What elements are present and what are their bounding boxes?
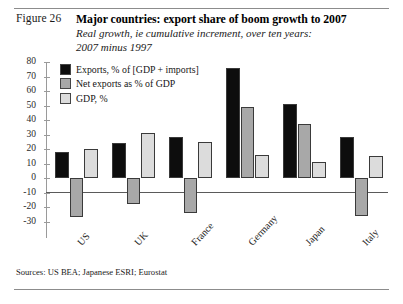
bar-germany-series-3 — [255, 155, 269, 178]
legend-swatch-icon — [60, 78, 71, 89]
x-label-italy: Italy — [360, 227, 381, 248]
y-tick-0 — [44, 178, 50, 179]
bar-japan-series-1 — [283, 104, 297, 178]
bar-uk-series-3 — [141, 133, 155, 178]
bar-japan-series-3 — [312, 162, 326, 178]
figure-panel: Figure 26 Major countries: export share … — [0, 0, 403, 304]
top-divider — [14, 8, 389, 9]
y-tick-neg20 — [44, 207, 50, 208]
y-tick-20 — [44, 149, 50, 150]
source-note: Sources: US BEA; Japanese ESRI; Eurostat — [16, 267, 167, 277]
x-label-germany: Germany — [246, 213, 279, 248]
bar-italy-series-1 — [340, 137, 354, 178]
figure-subtitle-line-1: Real growth, ie cumulative increment, ov… — [76, 27, 312, 39]
legend-item-2: Net exports as % of GDP — [60, 78, 199, 90]
bar-us-series-1 — [55, 152, 69, 178]
figure-subtitle-line-2: 2007 minus 1997 — [76, 41, 152, 53]
figure-title: Major countries: export share of boom gr… — [76, 12, 347, 27]
y-tick-label: 60 — [0, 86, 36, 96]
legend-item-1: Exports, % of [GDP + imports] — [60, 63, 199, 75]
bar-us-series-3 — [84, 149, 98, 178]
y-tick-60 — [44, 91, 50, 92]
y-tick-label: -30 — [0, 217, 36, 227]
legend-swatch-icon — [60, 93, 71, 104]
y-tick-label: 40 — [0, 115, 36, 125]
bar-italy-series-3 — [369, 156, 383, 178]
y-tick-40 — [44, 120, 50, 121]
legend-label: Net exports as % of GDP — [76, 78, 175, 89]
chart-legend: Exports, % of [GDP + imports]Net exports… — [60, 63, 199, 107]
y-tick-label: 50 — [0, 101, 36, 111]
bar-france-series-3 — [198, 142, 212, 178]
y-tick-neg10 — [44, 193, 50, 194]
y-tick-neg30 — [44, 222, 50, 223]
y-tick-label: 10 — [0, 159, 36, 169]
bar-japan-series-2 — [298, 124, 312, 178]
legend-swatch-icon — [60, 64, 71, 75]
bar-italy-series-2 — [355, 178, 369, 216]
x-label-us: US — [75, 231, 92, 248]
legend-item-3: GDP, % — [60, 92, 199, 104]
y-tick-label: -10 — [0, 188, 36, 198]
bar-uk-series-1 — [112, 143, 126, 178]
y-axis-line — [46, 62, 47, 238]
figure-number: Figure 26 — [16, 12, 61, 24]
x-label-france: France — [189, 220, 216, 247]
y-tick-30 — [44, 135, 50, 136]
y-tick-70 — [44, 77, 50, 78]
bar-us-series-2 — [70, 178, 84, 217]
y-tick-10 — [44, 164, 50, 165]
x-label-uk: UK — [132, 229, 150, 247]
bar-germany-series-2 — [241, 107, 255, 178]
y-tick-80 — [44, 62, 50, 63]
legend-label: GDP, % — [76, 93, 108, 104]
bar-france-series-1 — [169, 137, 183, 178]
y-tick-label: 80 — [0, 57, 36, 67]
y-tick-label: 70 — [0, 72, 36, 82]
legend-label: Exports, % of [GDP + imports] — [76, 64, 199, 75]
bottom-divider — [14, 289, 389, 290]
y-tick-label: -20 — [0, 202, 36, 212]
x-label-japan: Japan — [303, 223, 327, 247]
y-tick-label: 20 — [0, 144, 36, 154]
bar-france-series-2 — [184, 178, 198, 213]
bar-uk-series-2 — [127, 178, 141, 204]
zero-baseline — [46, 192, 388, 193]
y-tick-50 — [44, 106, 50, 107]
y-tick-label: 0 — [0, 173, 36, 183]
bar-germany-series-1 — [226, 68, 240, 178]
y-tick-label: 30 — [0, 130, 36, 140]
